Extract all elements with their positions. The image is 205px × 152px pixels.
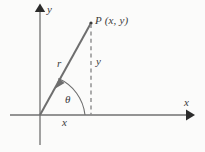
point-p-label: P (x, y)	[95, 15, 128, 26]
y-axis-label: y	[47, 4, 52, 15]
x-axis-arrowhead-icon	[186, 110, 195, 121]
x-axis-label: x	[184, 97, 189, 108]
angle-theta-label: θ	[65, 94, 70, 105]
vertical-leg-label: y	[96, 56, 101, 67]
polar-coordinate-diagram: y x P (x, y) r y x θ	[0, 0, 205, 152]
y-axis-arrowhead-icon	[35, 4, 45, 13]
radius-label: r	[57, 58, 61, 69]
horizontal-leg-label: x	[62, 117, 67, 128]
